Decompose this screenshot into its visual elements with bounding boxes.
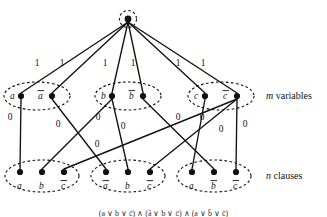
variable-a-node-pos (18, 93, 24, 99)
source-to-abar: 1 (52, 22, 128, 93)
clause-3-node-1 (211, 169, 217, 175)
clause-2-node-0-label: a (103, 181, 109, 191)
variable-a-node-neg-label-text: a (38, 91, 43, 101)
source-to-cbar-capacity-label: 1 (201, 58, 206, 68)
clause-3-node-1-label-text: b (211, 181, 216, 191)
source-to-cbar: 1 (128, 22, 237, 93)
c-to-clause3-a-capacity-label: 0 (176, 112, 181, 122)
cbar-to-clause2-c-capacity-label: 0 (219, 124, 224, 134)
source-to-cbar-line (128, 22, 237, 93)
clause-3-node-2-label: c (233, 181, 239, 191)
cbar-to-clause3-c: 0 (236, 99, 248, 169)
variable-c-node-neg-label-text: c (223, 91, 228, 101)
clauses-row-label: n clauses (266, 170, 302, 181)
variable-b-node-neg-label: b (129, 91, 135, 101)
clause-3-node-1-label: b (211, 181, 217, 191)
clause-2-node-0-label-text: a (103, 181, 108, 191)
figure-caption: (a ∨ b ∨ c̄) ∧ (ā ∨ b ∨ c̄) ∧ (a ∨ b̄ ∨ … (0, 208, 327, 217)
cbar-to-clause3-c-capacity-label: 0 (243, 119, 248, 129)
variable-b-node-pos (109, 93, 115, 99)
variable-a-node-pos-label-text: a (10, 91, 15, 101)
abar-to-clause2-a: 0 (52, 99, 106, 169)
variable-a-node-neg (49, 93, 55, 99)
clause-3-node-2-label-text: c (233, 181, 238, 191)
clause-2-node-2-label-text: c (147, 181, 152, 191)
cbar-to-clause3-c-line (236, 99, 237, 169)
clause-3-node-0 (189, 169, 195, 175)
abar-to-clause2-a-capacity-label: 0 (56, 119, 61, 129)
b-to-clause1-b-capacity-label: 0 (96, 112, 101, 122)
clause-3-node-0-label: a (189, 181, 194, 191)
clause-1-node-1 (39, 169, 45, 175)
a-to-clause1-a: 0 (8, 99, 21, 169)
a-to-clause1-a-capacity-label: 0 (8, 112, 13, 122)
b-to-clause2-b-capacity-label: 0 (121, 121, 126, 131)
variable-a-node-pos-label: a (10, 91, 15, 101)
clause-2-node-1-label: b (125, 181, 130, 191)
clause-1-node-2 (61, 169, 67, 175)
variable-b-node-neg-label-text: b (129, 91, 134, 101)
sat-maxflow-diagram: 111111000000000aabbccabcabcabcm variable… (0, 0, 327, 217)
a-to-clause1-a-line (20, 99, 21, 169)
bbar-to-clause3-b: 0 (95, 99, 214, 169)
clause-2-node-2-label: c (147, 181, 153, 191)
variable-c-node-neg-label: c (223, 91, 229, 101)
clause-2-node-0 (103, 169, 109, 175)
clause-1-node-2-label-text: c (61, 181, 66, 191)
variable-b-node-pos-label: b (101, 91, 106, 101)
variables-row-label: m variables (266, 90, 312, 101)
variable-c-node-neg (234, 93, 240, 99)
source-node (125, 16, 132, 23)
c-to-clause3-a: 0 (176, 99, 205, 169)
variable-a-node-neg-label: a (38, 91, 44, 101)
diagram-canvas: 111111000000000aabbccabcabcabcm variable… (0, 0, 327, 217)
variable-c-node-pos-label: c (194, 91, 199, 101)
cbar-to-clause1-c-capacity-label: 0 (200, 112, 205, 122)
cbar-to-clause1-c-line (64, 99, 237, 169)
abar-to-clause2-a-line (52, 99, 106, 169)
source-to-c-capacity-label: 1 (176, 58, 181, 68)
clause-1-node-1-label: b (39, 181, 44, 191)
clause-1-node-0-label-text: a (17, 181, 22, 191)
clause-2-node-2 (147, 169, 153, 175)
source-to-a-capacity-label: 1 (35, 58, 40, 68)
cbar-to-clause1-c: 0 (64, 99, 237, 169)
source-to-bbar-capacity-label: 1 (131, 58, 136, 68)
variable-c-node-pos (202, 93, 208, 99)
variable-c-node-pos-label-text: c (194, 91, 199, 101)
clause-1-node-0-label: a (17, 181, 22, 191)
clause-1-node-0 (17, 169, 23, 175)
clause-2-node-1 (125, 169, 131, 175)
clause-1-node-1-label-text: b (39, 181, 44, 191)
source-to-b-capacity-label: 1 (103, 58, 108, 68)
variable-b-node-neg (140, 93, 146, 99)
bbar-to-clause3-b-capacity-label: 0 (95, 139, 100, 149)
b-to-clause1-b-line (42, 99, 112, 169)
clause-3-node-0-label-text: a (189, 181, 194, 191)
source-to-abar-capacity-label: 1 (60, 58, 65, 68)
clause-3-node-2 (233, 169, 239, 175)
variable-b-node-pos-label-text: b (101, 91, 106, 101)
clause-1-node-2-label: c (61, 181, 67, 191)
clause-2-node-1-label-text: b (125, 181, 130, 191)
b-to-clause1-b: 0 (42, 99, 112, 169)
